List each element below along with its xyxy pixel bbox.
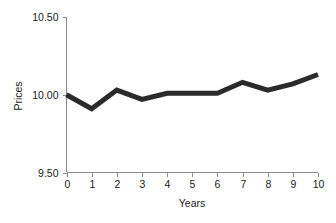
y-tick-label: 10.00 — [32, 89, 58, 101]
y-tick-label: 10.50 — [32, 11, 58, 23]
x-tick-label: 6 — [215, 178, 221, 190]
x-tick-label: 0 — [65, 178, 71, 190]
y-tick-label: 9.50 — [38, 167, 59, 179]
x-tick-label: 7 — [241, 178, 247, 190]
x-tick-label: 1 — [90, 178, 96, 190]
y-axis-title: Prices — [12, 81, 24, 110]
x-tick-label: 4 — [165, 178, 171, 190]
x-tick-label: 9 — [291, 178, 297, 190]
x-tick-label: 2 — [115, 178, 121, 190]
x-tick-label: 10 — [313, 178, 325, 190]
x-axis-title: Years — [179, 197, 205, 209]
line-chart: 9.5010.0010.50 012345678910 Prices Years — [0, 0, 336, 223]
chart-background — [0, 0, 336, 223]
x-tick-label: 3 — [140, 178, 146, 190]
x-tick-label: 5 — [190, 178, 196, 190]
x-tick-label: 8 — [266, 178, 272, 190]
chart-canvas: 9.5010.0010.50 012345678910 Prices Years — [0, 0, 336, 223]
